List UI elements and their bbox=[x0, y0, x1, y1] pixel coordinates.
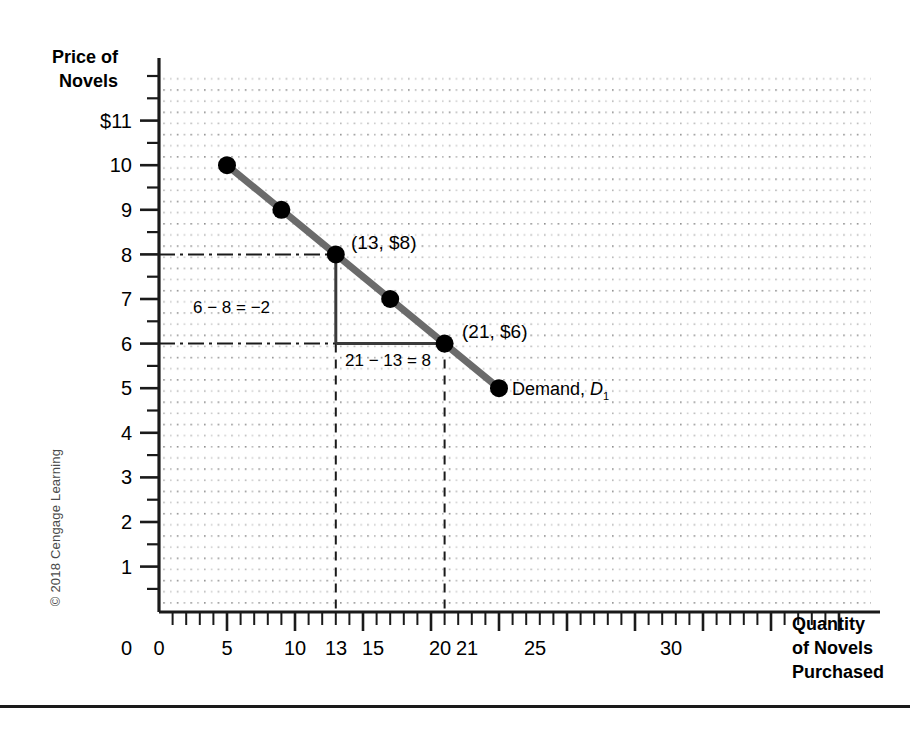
y-tick-label: 5 bbox=[62, 378, 132, 398]
y-tick-label: 1 bbox=[62, 557, 132, 577]
y-tick-label: 10 bbox=[62, 155, 132, 175]
y-tick-label: 9 bbox=[62, 200, 132, 220]
x-tick-label: 25 bbox=[505, 638, 565, 658]
y-tick-label: $11 bbox=[62, 111, 132, 131]
y-tick-label: 0 bbox=[62, 638, 132, 658]
annotation-point-13-8: (13, $8) bbox=[351, 233, 416, 252]
data-point bbox=[327, 245, 345, 263]
data-point bbox=[272, 201, 290, 219]
x-tick-label: 5 bbox=[197, 638, 257, 658]
y-axis-ticks bbox=[140, 76, 159, 589]
x-axis-title: Quantity of Novels Purchased bbox=[792, 612, 910, 684]
copyright-notice: © 2018 Cengage Learning bbox=[48, 428, 63, 628]
data-point bbox=[381, 290, 399, 308]
y-tick-label: 2 bbox=[62, 512, 132, 532]
x-tick-label: 0 bbox=[129, 638, 189, 658]
chart-canvas bbox=[0, 0, 910, 730]
bottom-divider bbox=[0, 705, 910, 708]
data-point bbox=[490, 379, 508, 397]
x-tick-label: 21 bbox=[437, 638, 497, 658]
demand-label-text: Demand, bbox=[512, 379, 590, 399]
data-point bbox=[218, 156, 236, 174]
demand-label-symbol: D bbox=[590, 379, 603, 399]
y-tick-label: 7 bbox=[62, 289, 132, 309]
x-axis-ticks bbox=[173, 612, 839, 631]
y-tick-label: 4 bbox=[62, 423, 132, 443]
demand-curve-figure: © 2018 Cengage Learning Price of Novels … bbox=[0, 0, 910, 730]
annotation-rise: 6 − 8 = −2 bbox=[193, 299, 270, 316]
y-tick-label: 8 bbox=[62, 245, 132, 265]
y-tick-label: 3 bbox=[62, 467, 132, 487]
y-tick-label: 6 bbox=[62, 334, 132, 354]
annotation-point-21-6: (21, $6) bbox=[462, 322, 527, 341]
chart-gridlines bbox=[159, 76, 871, 612]
x-tick-label: 30 bbox=[641, 638, 701, 658]
x-tick-label: 15 bbox=[343, 638, 403, 658]
data-point bbox=[436, 335, 454, 353]
y-axis-title: Price of Novels bbox=[10, 46, 118, 94]
demand-label-subscript: 1 bbox=[603, 390, 609, 402]
annotation-run: 21 − 13 = 8 bbox=[345, 352, 431, 369]
demand-curve-label: Demand, D1 bbox=[512, 380, 609, 402]
